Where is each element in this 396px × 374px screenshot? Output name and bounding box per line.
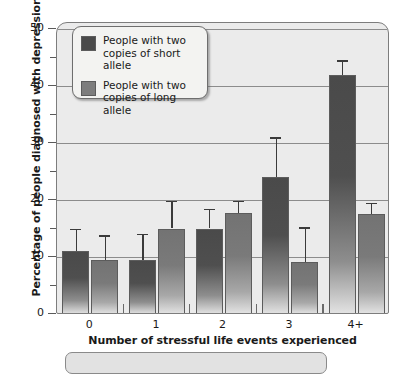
errorbar-short-4+ bbox=[342, 60, 343, 74]
errorbar-short-2 bbox=[209, 209, 210, 229]
y-tick-50 bbox=[48, 28, 56, 29]
x-tick-label-1: 1 bbox=[136, 318, 176, 331]
bar-long-allele-4+ bbox=[358, 214, 385, 314]
y-tick-10 bbox=[48, 256, 56, 257]
x-tick-label-2: 2 bbox=[203, 318, 243, 331]
errorbar-cap-short-4+ bbox=[337, 60, 348, 61]
y-minor-tick-45 bbox=[50, 57, 56, 58]
legend-label-short-allele-line1: People with two bbox=[103, 34, 186, 46]
errorbar-cap-short-1 bbox=[137, 234, 148, 235]
bar-short-allele-3 bbox=[262, 177, 289, 314]
x-tick-mark-2 bbox=[256, 304, 257, 314]
y-minor-tick-15 bbox=[50, 228, 56, 229]
errorbar-cap-long-4+ bbox=[366, 203, 377, 204]
bar-long-allele-3 bbox=[291, 262, 318, 314]
errorbar-cap-long-2 bbox=[233, 201, 244, 202]
x-tick-label-0: 0 bbox=[69, 318, 109, 331]
y-minor-tick-35 bbox=[50, 114, 56, 115]
bar-short-allele-4+ bbox=[329, 75, 356, 314]
errorbar-short-0 bbox=[76, 229, 77, 252]
bar-short-allele-2 bbox=[196, 229, 223, 315]
bar-short-allele-0 bbox=[62, 251, 89, 314]
legend-item-short-allele: People with two copies of short allele bbox=[81, 34, 201, 72]
bar-long-allele-2 bbox=[225, 213, 252, 314]
errorbar-cap-long-1 bbox=[166, 201, 177, 202]
errorbar-cap-long-3 bbox=[299, 227, 310, 228]
y-tick-label-10: 10 bbox=[4, 249, 44, 262]
y-tick-label-40: 40 bbox=[4, 78, 44, 91]
y-tick-0 bbox=[48, 313, 56, 314]
bar-long-allele-1 bbox=[158, 229, 185, 315]
errorbar-cap-short-0 bbox=[70, 229, 81, 230]
errorbar-cap-short-3 bbox=[270, 137, 281, 138]
errorbar-cap-long-0 bbox=[99, 235, 110, 236]
y-tick-40 bbox=[48, 85, 56, 86]
legend-label-short-allele: People with two copies of short allele bbox=[103, 34, 201, 72]
x-tick-mark-1 bbox=[189, 304, 190, 314]
caption-strip bbox=[65, 352, 327, 374]
y-tick-20 bbox=[48, 199, 56, 200]
chart-legend: People with two copies of short allele P… bbox=[72, 26, 208, 99]
y-minor-tick-25 bbox=[50, 171, 56, 172]
y-tick-30 bbox=[48, 142, 56, 143]
legend-label-short-allele-line2: copies of short allele bbox=[103, 47, 181, 72]
legend-swatch-long-allele-icon bbox=[81, 81, 96, 96]
y-minor-tick-5 bbox=[50, 285, 56, 286]
errorbar-short-1 bbox=[142, 234, 143, 260]
legend-label-long-allele-line1: People with two bbox=[103, 79, 186, 91]
x-tick-mark-0 bbox=[123, 304, 124, 314]
y-tick-label-0: 0 bbox=[4, 306, 44, 319]
errorbar-long-1 bbox=[171, 201, 172, 228]
x-tick-mark-3 bbox=[322, 304, 323, 314]
x-tick-label-3: 3 bbox=[269, 318, 309, 331]
y-tick-label-20: 20 bbox=[4, 192, 44, 205]
legend-label-long-allele: People with two copies of long allele bbox=[103, 79, 201, 117]
errorbar-short-3 bbox=[276, 137, 277, 177]
errorbar-long-3 bbox=[305, 227, 306, 261]
bar-long-allele-0 bbox=[91, 260, 118, 314]
bar-short-allele-1 bbox=[129, 260, 156, 314]
errorbar-long-0 bbox=[105, 235, 106, 260]
legend-label-long-allele-line2: copies of long allele bbox=[103, 91, 176, 116]
errorbar-long-2 bbox=[238, 201, 239, 212]
errorbar-long-4+ bbox=[371, 203, 372, 214]
legend-item-long-allele: People with two copies of long allele bbox=[81, 79, 201, 117]
x-tick-label-4+: 4+ bbox=[336, 318, 376, 331]
x-axis-title: Number of stressful life events experien… bbox=[56, 334, 389, 347]
y-tick-label-50: 50 bbox=[4, 21, 44, 34]
y-tick-label-30: 30 bbox=[4, 135, 44, 148]
legend-swatch-short-allele-icon bbox=[81, 36, 96, 51]
errorbar-cap-short-2 bbox=[204, 209, 215, 210]
